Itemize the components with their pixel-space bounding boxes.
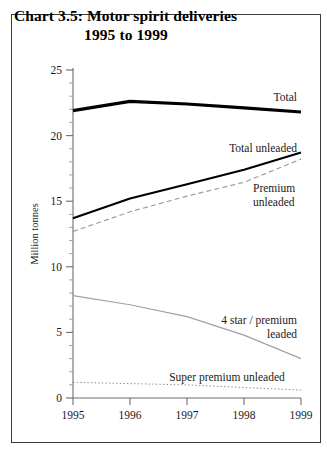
y-axis-title: Million tonnes xyxy=(29,203,40,265)
x-tick-label-1995: 1995 xyxy=(62,409,85,421)
series-line-super-premium-unleaded xyxy=(73,382,301,390)
x-tick-label-1998: 1998 xyxy=(233,409,256,421)
y-tick-label-15: 15 xyxy=(51,195,63,207)
y-tick-label-25: 25 xyxy=(51,64,63,76)
series-label-premium-unleaded-line-1: Premium xyxy=(253,182,295,194)
series-label-total-unleaded: Total unleaded xyxy=(229,142,297,154)
x-tick-label-1999: 1999 xyxy=(290,409,313,421)
series-label-4-star-premium-leaded-line-2: leaded xyxy=(267,328,297,340)
x-tick-label-1997: 1997 xyxy=(176,409,199,421)
series-label-super-premium-unleaded: Super premium unleaded xyxy=(169,371,285,384)
y-tick-label-5: 5 xyxy=(56,326,62,338)
series-line-total xyxy=(73,101,301,112)
chart-page: Chart 3.5: Motor spirit deliveries 1995 … xyxy=(0,0,327,456)
y-tick-label-10: 10 xyxy=(51,261,63,273)
series-label-4-star-premium-leaded-line-1: 4 star / premium xyxy=(221,314,297,327)
y-tick-label-20: 20 xyxy=(51,130,63,142)
x-tick-label-1996: 1996 xyxy=(119,409,142,421)
series-label-premium-unleaded-line-2: unleaded xyxy=(253,196,295,208)
y-axis-major-ticks xyxy=(66,70,73,398)
y-tick-label-0: 0 xyxy=(56,392,62,404)
x-axis-ticks xyxy=(73,398,301,405)
series-label-total: Total xyxy=(274,91,297,103)
plot-area: 25 20 15 10 5 0 1995 1996 1997 1998 1999… xyxy=(0,0,327,456)
y-axis-minor-ticks xyxy=(69,83,73,385)
